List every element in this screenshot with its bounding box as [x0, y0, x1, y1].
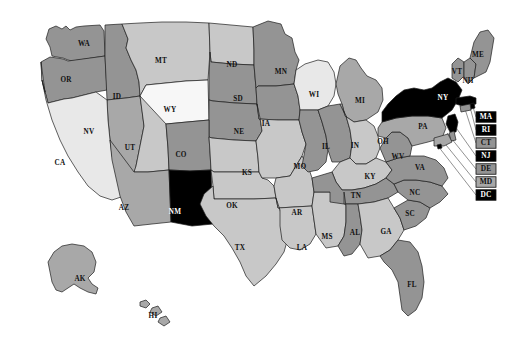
state-label-ar: AR [292, 209, 303, 217]
states-layer [41, 21, 494, 326]
callout-label-nj: NJ [481, 151, 491, 160]
state-label-vt: VT [452, 68, 462, 76]
state-label-nh: NH [462, 77, 473, 85]
state-label-tn: TN [351, 192, 362, 200]
map-svg: WAORIDMTWYNDSDNEMNIAWIMINVUTCOCAAZNMKSOK… [0, 0, 526, 342]
state-label-wv: WV [392, 153, 405, 161]
state-label-az: AZ [119, 204, 129, 212]
state-label-ak: AK [74, 275, 85, 283]
state-label-wi: WI [309, 91, 319, 99]
state-tx[interactable] [200, 186, 288, 286]
state-label-nm: NM [169, 208, 181, 216]
callout-label-ri: RI [482, 125, 491, 134]
callout-label-dc: DC [480, 190, 491, 199]
state-label-ks: KS [242, 169, 252, 177]
state-label-mt: MT [155, 57, 167, 65]
state-dc[interactable] [437, 144, 442, 149]
state-label-ga: GA [380, 228, 392, 236]
us-choropleth-map: WAORIDMTWYNDSDNEMNIAWIMINVUTCOCAAZNMKSOK… [0, 0, 526, 342]
state-nd[interactable] [209, 23, 254, 65]
state-label-ia: IA [262, 120, 271, 128]
state-label-il: IL [322, 143, 330, 151]
state-label-mn: MN [275, 68, 288, 76]
state-label-ms: MS [321, 233, 332, 241]
callout-label-ma: MA [480, 112, 493, 121]
state-label-nc: NC [410, 189, 421, 197]
state-nj[interactable] [446, 114, 458, 132]
state-label-tx: TX [235, 244, 246, 252]
callout-label-ct: CT [481, 138, 492, 147]
state-label-mi: MI [355, 97, 365, 105]
state-label-or: OR [60, 76, 72, 84]
state-label-al: AL [350, 229, 360, 237]
callout-label-md: MD [480, 177, 493, 186]
state-label-hi: HI [149, 312, 158, 320]
state-label-ny: NY [438, 94, 449, 102]
state-label-wa: WA [78, 40, 91, 48]
state-label-mo: MO [294, 163, 307, 171]
state-label-co: CO [175, 151, 186, 159]
state-wi[interactable] [294, 60, 336, 110]
state-ak[interactable] [48, 244, 98, 294]
state-wa[interactable] [46, 25, 105, 61]
state-label-id: ID [113, 93, 121, 101]
state-label-wy: WY [164, 106, 177, 114]
state-mn[interactable] [253, 21, 299, 88]
state-label-ca: CA [55, 159, 66, 167]
state-label-nd: ND [227, 61, 238, 69]
state-label-pa: PA [418, 123, 428, 131]
state-label-oh: OH [377, 138, 389, 146]
callout-boxes-layer: MARICTNJDEMDDC [476, 112, 496, 201]
state-label-me: ME [472, 51, 484, 59]
state-label-ky: KY [364, 173, 376, 181]
state-ks[interactable] [209, 137, 259, 172]
state-label-fl: FL [407, 281, 417, 289]
callout-label-de: DE [481, 164, 492, 173]
state-label-sd: SD [233, 95, 243, 103]
state-label-ne: NE [234, 128, 244, 136]
state-co[interactable] [166, 120, 211, 171]
state-label-ut: UT [125, 144, 135, 152]
state-label-va: VA [415, 164, 425, 172]
state-ia[interactable] [256, 84, 300, 120]
state-label-in: IN [351, 142, 360, 150]
state-label-ok: OK [226, 202, 238, 210]
state-label-sc: SC [405, 210, 415, 218]
state-label-la: LA [297, 244, 308, 252]
state-label-nv: NV [84, 128, 95, 136]
